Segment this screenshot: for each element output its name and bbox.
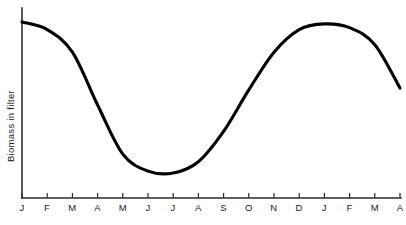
x-axis-tick-label: J xyxy=(171,202,176,213)
x-axis-tick-label: A xyxy=(94,202,101,213)
x-axis-tick-label: D xyxy=(296,202,303,213)
x-axis-tick-label: J xyxy=(145,202,150,213)
biomass-curve xyxy=(22,22,400,174)
x-axis-tick-label: N xyxy=(270,202,277,213)
x-axis-tick-label: J xyxy=(322,202,327,213)
x-axis-tick-label: F xyxy=(44,202,50,213)
x-axis-tick-label: A xyxy=(397,202,404,213)
axes-group xyxy=(22,8,401,198)
x-axis-tick-label: M xyxy=(119,202,127,213)
y-axis-title: Biomass in filter xyxy=(5,90,16,162)
x-axis-tick-label: F xyxy=(346,202,352,213)
chart-container: JFMAMJJASONDJFMA Biomass in filter xyxy=(0,0,406,225)
x-axis-tick-label: M xyxy=(371,202,379,213)
x-axis-tick-label: O xyxy=(245,202,253,213)
x-axis-tick-label: M xyxy=(68,202,76,213)
x-axis-label-group: JFMAMJJASONDJFMA xyxy=(19,202,403,213)
x-axis-tick-label: A xyxy=(195,202,202,213)
x-axis-tick-label: S xyxy=(220,202,227,213)
x-axis-tick-label: J xyxy=(19,202,24,213)
biomass-seasonal-line-chart: JFMAMJJASONDJFMA Biomass in filter xyxy=(0,0,406,225)
